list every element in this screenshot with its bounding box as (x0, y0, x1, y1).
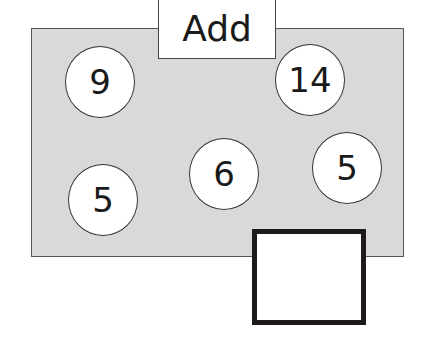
number-circle: 14 (275, 44, 345, 116)
number-circle: 6 (189, 138, 259, 210)
number-circle: 9 (65, 46, 135, 118)
number-circle: 5 (312, 132, 382, 204)
number-circle: 5 (68, 164, 138, 236)
answer-box[interactable] (252, 229, 366, 325)
operation-label: Add (158, 0, 276, 59)
